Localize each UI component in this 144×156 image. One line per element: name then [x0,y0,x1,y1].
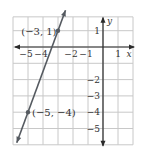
y-axis-label: y [106,16,113,26]
y-tick-label: −5 [87,124,101,134]
data-point-label: (−5, −4) [32,107,76,118]
y-tick-label: −3 [87,91,101,101]
data-point [26,110,30,114]
x-axis-label: x [126,49,131,59]
y-axis-arrow-down [101,141,106,147]
data-points: (−3, 1)(−5, −4) [21,26,76,119]
x-tick-label: 1 [115,49,121,59]
y-axis-arrow-up [101,17,106,23]
y-tick-label: 1 [94,26,100,36]
line-arrow-top [61,10,66,16]
x-tick-label: −2 [64,49,77,59]
coordinate-plane: xy −5−4−2−111−2−3−4−5 (−3, 1)(−5, −4) [0,0,144,156]
x-tick-label: −5 [19,49,33,59]
x-tick-label: −4 [34,49,48,59]
line-arrow-bottom [16,136,21,142]
data-point-label: (−3, 1) [21,26,56,37]
y-tick-label: −4 [87,107,101,117]
x-tick-label: −1 [79,49,92,59]
y-tick-label: −2 [87,75,100,85]
